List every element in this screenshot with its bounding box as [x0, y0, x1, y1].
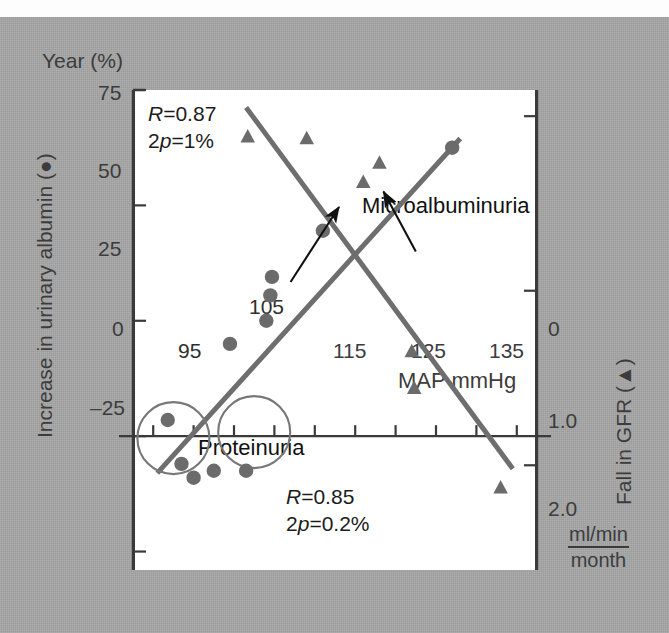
- right-ytick-1: 1.0: [548, 410, 577, 431]
- unit-denominator: month: [568, 548, 629, 571]
- annotation-proteinuria: Proteinuria: [198, 437, 304, 459]
- stats-prot-p-label: p: [298, 512, 310, 535]
- left-ytick-0: 0: [112, 318, 124, 339]
- x-axis-title: MAP mmHg: [398, 370, 516, 392]
- left-ytick-25: 25: [98, 238, 121, 259]
- xtick-135: 135: [489, 340, 524, 361]
- stats-micro-r-value: 0.87: [175, 102, 216, 125]
- xtick-115: 115: [333, 340, 366, 361]
- stats-prot-r-value: 0.85: [313, 485, 354, 508]
- right-axis-title-gfr: Fall in GFR (▲): [613, 358, 634, 505]
- xtick-95: 95: [178, 340, 201, 361]
- xtick-105: 105: [249, 296, 284, 317]
- stats-micro-p-label: p: [160, 129, 172, 152]
- right-ytick-2: 2.0: [548, 498, 577, 519]
- stats-prot-r-label: R: [286, 485, 301, 508]
- left-ytick-minus25: –25: [90, 397, 125, 418]
- right-ytick-0: 0: [548, 318, 560, 339]
- xtick-125: 125: [411, 340, 446, 361]
- stats-prot-p-value: 0.2%: [322, 512, 370, 535]
- right-axis-unit: ml/min month: [568, 523, 629, 572]
- left-axis-title-albumin: Increase in urinary albumin (●): [34, 153, 55, 438]
- annotation-microalbuminuria: Microalbuminuria: [362, 195, 530, 217]
- unit-numerator: ml/min: [568, 523, 629, 548]
- stats-prot-r: R=0.85: [286, 486, 354, 507]
- stats-micro-p: 2p=1%: [148, 130, 214, 151]
- top-caption-strip: [0, 0, 669, 17]
- left-ytick-50: 50: [98, 160, 121, 181]
- stats-micro-p-value: 1%: [184, 129, 214, 152]
- stats-micro-r: R=0.87: [148, 103, 216, 124]
- left-axis-title-year: Year (%): [42, 50, 123, 71]
- stats-micro-r-label: R: [148, 102, 163, 125]
- figure-canvas: Year (%) Increase in urinary albumin (●)…: [0, 0, 669, 633]
- stats-prot-p: 2p=0.2%: [286, 513, 370, 534]
- left-ytick-75: 75: [98, 82, 121, 103]
